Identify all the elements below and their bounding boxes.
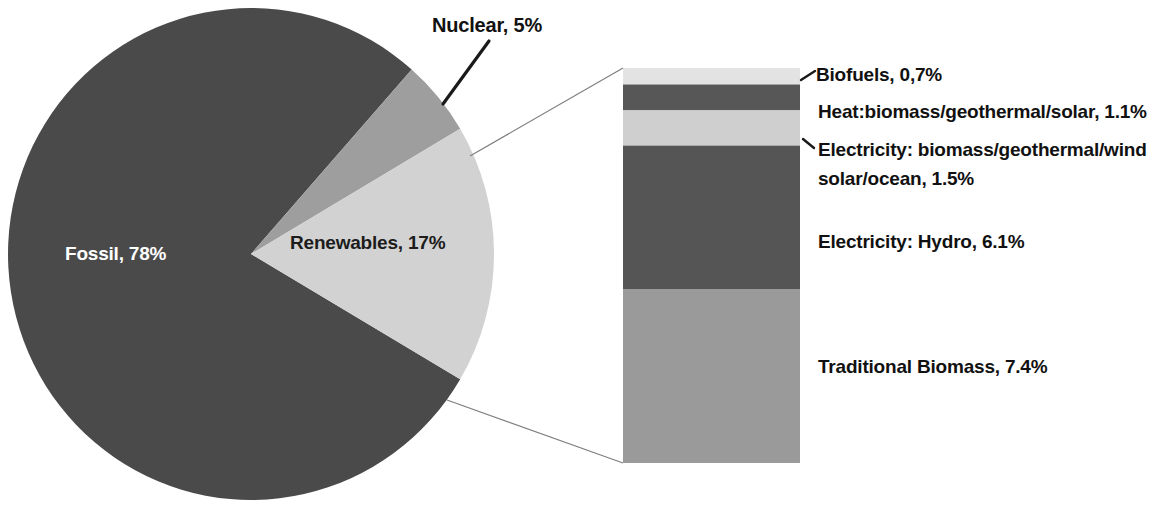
pie-label-fossil: Fossil, 78% bbox=[65, 243, 166, 265]
nuclear-leader-line bbox=[443, 41, 489, 104]
stacked-bar bbox=[623, 68, 800, 463]
electricity-renewables-leader-tick bbox=[803, 139, 814, 148]
bar-label-electricity-renewables-line2: solar/ocean, 1.5% bbox=[818, 168, 974, 189]
bar-segment-biofuels[interactable] bbox=[623, 68, 800, 85]
bar-segment-electricity-renewables[interactable] bbox=[623, 110, 800, 145]
bar-segment-heat[interactable] bbox=[623, 85, 800, 111]
chart-graphics bbox=[0, 0, 1165, 513]
energy-breakdown-figure: Fossil, 78% Renewables, 17% Nuclear, 5% … bbox=[0, 0, 1165, 513]
pie-label-renewables: Renewables, 17% bbox=[290, 232, 445, 254]
bar-label-electricity-hydro: Electricity: Hydro, 6.1% bbox=[818, 227, 1024, 256]
callout-line-top bbox=[470, 68, 623, 156]
callout-line-bottom bbox=[447, 400, 623, 463]
pie-label-nuclear: Nuclear, 5% bbox=[432, 14, 542, 37]
bar-segment-traditional-biomass[interactable] bbox=[623, 289, 800, 463]
biofuels-leader-tick bbox=[801, 71, 815, 80]
bar-label-heat: Heat:biomass/geothermal/solar, 1.1% bbox=[818, 97, 1147, 126]
bar-label-biofuels: Biofuels, 0,7% bbox=[816, 60, 942, 89]
bar-label-electricity-renewables: Electricity: biomass/geothermal/wind sol… bbox=[818, 135, 1165, 194]
bar-segment-electricity-hydro[interactable] bbox=[623, 146, 800, 289]
bar-label-traditional-biomass: Traditional Biomass, 7.4% bbox=[818, 352, 1047, 381]
bar-label-electricity-renewables-line1: Electricity: biomass/geothermal/wind bbox=[818, 139, 1147, 160]
